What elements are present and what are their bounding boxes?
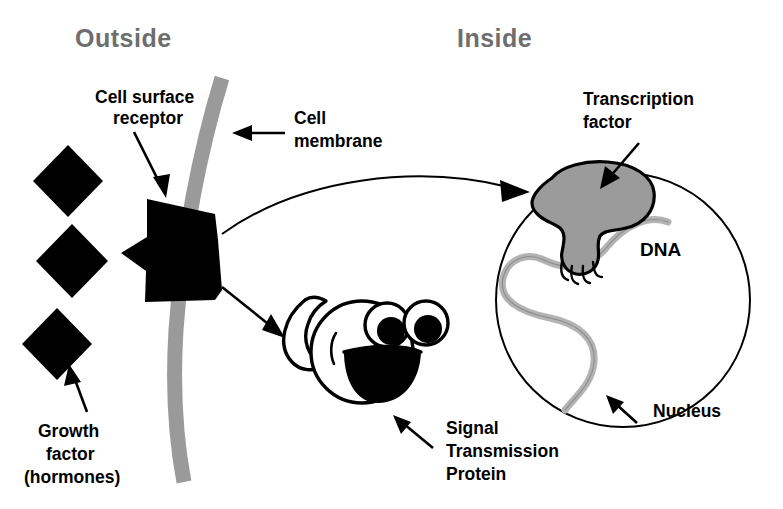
transcription-factor-label-line1: Transcription <box>583 89 694 109</box>
cell-membrane-label-line2: membrane <box>294 131 383 151</box>
receptor-label-arrow <box>134 132 170 198</box>
growth-factor-diamonds <box>22 145 108 380</box>
receptor-to-protein-arrow <box>222 287 285 338</box>
diagram-canvas: Outside Inside Cell surface receptor <box>0 0 783 509</box>
growth-factor-label-arrow <box>64 364 87 412</box>
growth-factor-label-line2: factor <box>46 444 95 464</box>
cell-membrane-label-arrow <box>232 125 285 141</box>
cell-surface-receptor-label-line2: receptor <box>113 108 183 128</box>
signal-transmission-protein <box>284 297 448 403</box>
signal-protein-label-line1: Signal <box>446 418 499 438</box>
signal-pathway-arc <box>222 177 530 234</box>
growth-factor-label-line3: (hormones) <box>24 467 120 487</box>
transcription-factor-label-line2: factor <box>583 112 632 132</box>
header-inside: Inside <box>457 24 532 52</box>
nucleus-label: Nucleus <box>653 401 721 421</box>
cell-surface-receptor-label-line1: Cell surface <box>95 87 194 107</box>
header-outside: Outside <box>75 24 172 52</box>
growth-factor-diamond <box>22 308 92 380</box>
growth-factor-label-line1: Growth <box>38 421 99 441</box>
signal-protein-label-line2: Transmission <box>446 441 559 461</box>
cell-membrane-label-line1: Cell <box>294 108 326 128</box>
cell-surface-receptor <box>121 199 222 302</box>
signal-protein-label-arrow <box>393 415 433 448</box>
dna-label: DNA <box>640 239 681 260</box>
growth-factor-diamond <box>33 145 103 217</box>
nucleus-label-arrow <box>606 395 637 423</box>
signal-protein-label-line3: Protein <box>446 464 506 484</box>
growth-factor-diamond <box>36 224 108 298</box>
cell-signaling-diagram: Outside Inside Cell surface receptor <box>0 0 783 509</box>
